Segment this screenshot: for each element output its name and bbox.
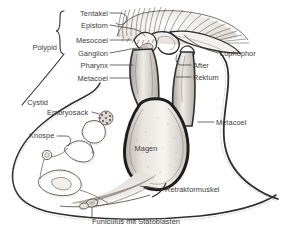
- embryosack: [99, 111, 113, 125]
- label-embryosack: Embryosack: [47, 108, 88, 117]
- label-mesocoel: Mesocoel: [76, 36, 108, 45]
- label-pharynx: Pharynx: [81, 61, 108, 70]
- label-rektum: Rektum: [193, 73, 219, 82]
- label-magen: Magen: [135, 144, 158, 153]
- label-epistom: Epistom: [81, 21, 108, 30]
- label-after: After: [193, 61, 209, 70]
- label-tentakel: Tentakel: [80, 9, 108, 18]
- label-ganglion: Ganglion: [78, 49, 108, 58]
- retractor-mass: [68, 172, 156, 205]
- leader-embryosack: [92, 112, 99, 114]
- label-funiculus: Funiculus mit Statoblasten: [92, 217, 180, 226]
- label-lophophor: Lophophor: [220, 49, 256, 58]
- label-metacoel-right: Metacoel: [216, 118, 246, 127]
- label-polypid: Polypid: [32, 43, 57, 52]
- label-metacoel-left: Metacoel: [78, 74, 108, 83]
- label-knospe: Knospe: [29, 131, 54, 140]
- bryozoa-anatomy-figure: Polypid Cystid Tentakel Epistom Mesocoel…: [0, 0, 283, 236]
- polypid-brace: [56, 11, 64, 54]
- label-cystid: Cystid: [27, 98, 48, 107]
- bud-loop-middle: [65, 141, 94, 162]
- label-retraktormuskel: Retraktormuskel: [165, 185, 220, 194]
- knospe-vesicle-core: [45, 153, 50, 158]
